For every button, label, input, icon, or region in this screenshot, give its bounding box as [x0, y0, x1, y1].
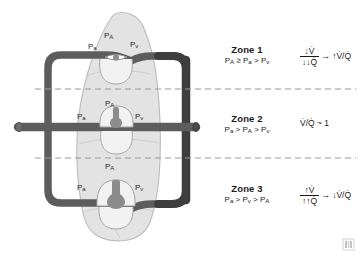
rel-p3: > P	[252, 56, 266, 65]
zone-1-result: ↑V̇/Q̇	[332, 52, 351, 61]
label-sub: A	[110, 165, 114, 171]
zone-3-arrow: →	[319, 191, 332, 200]
zone-3-denominator: ↑↑Q̇	[300, 196, 319, 206]
zone-1-formula: ↓V̇ ↓↓Q̇ →↑V̇/Q̇	[300, 46, 351, 67]
rel-p3: > P	[251, 195, 265, 204]
zone-3-numerator: ↑V̇	[300, 185, 319, 196]
label-sub: v	[140, 115, 143, 121]
label-sub: v	[135, 43, 138, 49]
rel-s1: a	[230, 127, 233, 134]
zone-3-relation: Pa > Pv > PA	[206, 195, 288, 205]
label-sub: A	[110, 102, 114, 108]
label-zone2-pv-venous: Pv	[135, 112, 143, 121]
zone-2-text-block: Zone 2 Pa > PA > Pv	[206, 113, 288, 135]
rel-s3: v	[266, 127, 269, 134]
zone-1-fraction: ↓V̇ ↓↓Q̇	[300, 46, 319, 67]
label-sub: A	[109, 34, 113, 40]
watermark-icon	[342, 238, 355, 251]
zone1-blood-droplet	[113, 55, 119, 61]
zone-1-arrow: →	[319, 52, 332, 61]
figure-canvas: Pa PA Pv Pa PA Pv Pa PA Pv Zone 1 PA ≥ P…	[0, 0, 361, 257]
rel-p2: ≥ P	[234, 56, 248, 65]
label-zone2-pa-alveolar: PA	[105, 99, 114, 108]
rel-p2: > P	[233, 195, 247, 204]
zone-3-result: ↓V̇/Q̇	[332, 191, 351, 200]
zone-1-title: Zone 1	[206, 44, 288, 55]
label-zone1-pa-arterial: Pa	[88, 42, 97, 51]
label-zone1-pv-venous: Pv	[130, 40, 138, 49]
label-sub: a	[82, 186, 85, 192]
zone-1-relation: PA ≥ Pa > Pv	[206, 56, 288, 66]
rel-s1: A	[230, 58, 234, 65]
label-sub: a	[82, 115, 85, 121]
lung-zones-diagram	[0, 0, 361, 257]
label-sub: v	[140, 186, 143, 192]
zone-3-text-block: Zone 3 Pa > Pv > PA	[206, 183, 288, 205]
zone-3-fraction: ↑V̇ ↑↑Q̇	[300, 185, 319, 206]
label-zone3-pv-venous: Pv	[135, 183, 143, 192]
label-zone2-pa-arterial: Pa	[77, 112, 86, 121]
rel-s2: a	[248, 58, 251, 65]
zone-2-relation: Pa > PA > Pv	[206, 125, 288, 135]
zone3-alveolar-capillary-unit	[97, 180, 135, 229]
zone1-alveolus-outline	[100, 59, 133, 84]
rel-s3: A	[265, 197, 269, 204]
label-zone3-pa-alveolar: PA	[105, 162, 114, 171]
zone2-alveolus-outline	[101, 131, 133, 154]
label-sub: a	[93, 45, 96, 51]
rel-s2: v	[248, 197, 251, 204]
label-zone1-pa-alveolar: PA	[104, 31, 113, 40]
zone-3-title: Zone 3	[206, 183, 288, 194]
zone-1-numerator: ↓V̇	[300, 46, 319, 57]
zone-1-denominator: ↓↓Q̇	[300, 57, 319, 67]
label-zone3-pa-arterial: Pa	[77, 183, 86, 192]
zone-2-formula: V̇/Q̇ ~ 1	[300, 118, 329, 128]
zone-1-text-block: Zone 1 PA ≥ Pa > Pv	[206, 44, 288, 66]
vessel-lumen-left-end	[16, 122, 23, 131]
vessel-lumen-right-end	[193, 123, 199, 132]
rel-p2: > P	[233, 125, 247, 134]
rel-s2: A	[248, 127, 252, 134]
zone-3-formula: ↑V̇ ↑↑Q̇ →↓V̇/Q̇	[300, 185, 351, 206]
rel-p3: > P	[252, 125, 266, 134]
rel-s3: v	[266, 58, 269, 65]
zone-2-title: Zone 2	[206, 113, 288, 124]
rel-s1: a	[230, 197, 233, 204]
